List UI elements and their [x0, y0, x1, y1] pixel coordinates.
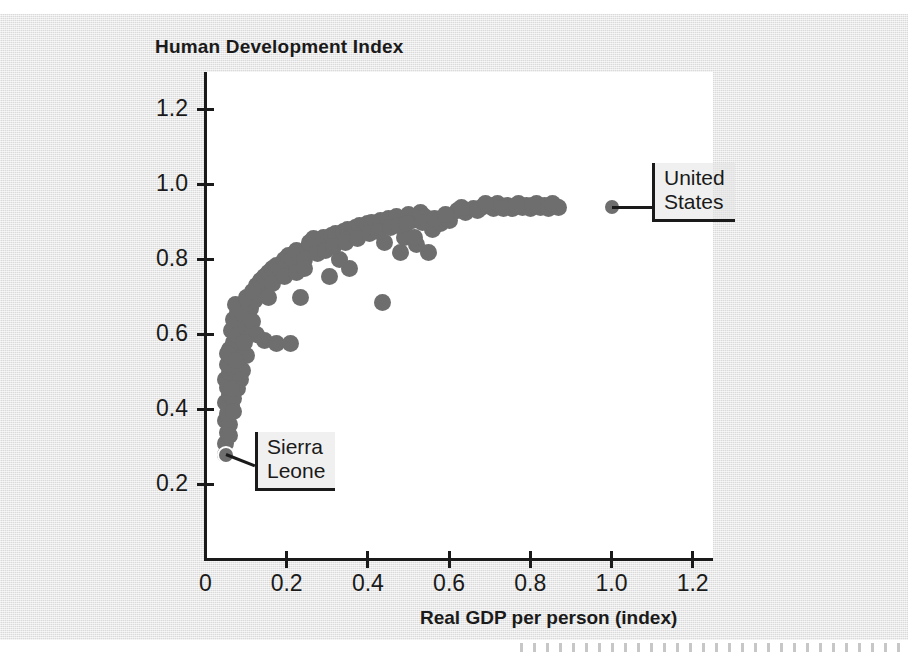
- y-axis-tick: [197, 483, 214, 486]
- scatter-point: [524, 197, 541, 214]
- y-axis-tick: [197, 258, 214, 261]
- x-axis-tick: [610, 551, 613, 568]
- y-axis-line: [204, 72, 207, 561]
- scatter-point: [236, 334, 253, 351]
- scatter-point: [544, 195, 561, 212]
- x-axis-tick: [285, 551, 288, 568]
- y-axis-tick: [197, 108, 214, 111]
- y-axis-tick: [197, 408, 214, 411]
- annotation-leader-line-united-states: [612, 206, 653, 209]
- y-axis-tick-label: 0.6: [128, 320, 188, 347]
- annotation-label-united-states: United States: [652, 163, 735, 222]
- chart-title: Human Development Index: [155, 36, 403, 58]
- y-axis-tick-label: 0.2: [128, 470, 188, 497]
- scatter-point: [321, 268, 338, 285]
- scatter-point: [420, 244, 437, 261]
- y-axis-tick: [197, 333, 214, 336]
- y-axis-tick-label: 0.4: [128, 395, 188, 422]
- annotation-label-sierra-leone: Sierra Leone: [255, 432, 335, 491]
- x-axis-tick: [448, 551, 451, 568]
- x-axis-tick: [529, 551, 532, 568]
- x-axis-tick-label: 1.0: [582, 570, 642, 597]
- scatter-point: [508, 197, 525, 214]
- x-axis-tick: [366, 551, 369, 568]
- x-axis-line: [204, 558, 713, 561]
- y-axis-tick: [197, 183, 214, 186]
- scatter-point: [392, 244, 409, 261]
- scatter-point: [477, 195, 494, 212]
- scatter-point: [292, 289, 309, 306]
- scatter-point: [453, 199, 470, 216]
- x-axis-tick-label: 0.4: [338, 570, 398, 597]
- x-axis-tick-label: 0.8: [500, 570, 560, 597]
- scatter-point: [437, 206, 454, 223]
- x-axis-tick-label: 0.6: [419, 570, 479, 597]
- scatter-point: [406, 229, 423, 246]
- x-axis-tick-label: 0.2: [257, 570, 317, 597]
- x-axis-tick-label: 0: [176, 570, 236, 597]
- x-axis-tick: [691, 551, 694, 568]
- x-axis-tick-label: 1.2: [663, 570, 723, 597]
- scatter-point: [374, 294, 391, 311]
- text-bleed-artifact: [520, 643, 900, 652]
- y-axis-tick-label: 1.2: [128, 95, 188, 122]
- y-axis-tick-label: 1.0: [128, 170, 188, 197]
- x-axis-title: Real GDP per person (index): [420, 607, 677, 629]
- y-axis-tick-label: 0.8: [128, 245, 188, 272]
- chart-page: Human Development Index 0.20.40.60.81.01…: [0, 0, 908, 654]
